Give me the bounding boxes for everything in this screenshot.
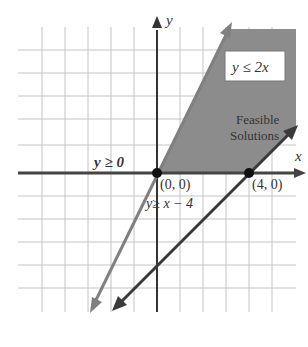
y-axis-arrow-icon [152,16,162,28]
point-origin-label: (0, 0) [160,177,191,193]
x-axis-arrow-icon [294,168,306,178]
y-axis-label: y [164,12,173,28]
x-axis-label: x [294,148,302,164]
feasible-label-line1: Feasible [236,112,280,127]
feasible-region-chart: y ≤ 2x Feasible Solutions x y y ≥ 0 (0, … [0,0,308,347]
ineq-2x-label: y ≤ 2x [230,59,269,75]
point-four-label: (4, 0) [252,177,283,193]
line-2x-arrow-bottom-icon [90,297,102,313]
feasible-label-line2: Solutions [230,128,279,143]
ineq-y0-label: y ≥ 0 [92,154,124,170]
line-2x-arrow-top-icon [220,22,232,38]
ineq-x4-label: y≥ x − 4 [144,196,193,211]
